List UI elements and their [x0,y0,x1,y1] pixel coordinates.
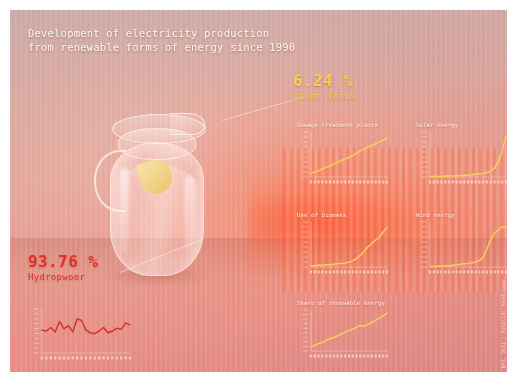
other-forms-value: 6.24 % [293,72,356,90]
chart-sewage-treatment-plants: Sewage treatment plants [297,122,389,184]
other-forms-label: Other forms [293,90,356,102]
chart-title-hydro [28,298,132,305]
chart-title-solar: Solar energy [416,122,507,128]
chart-share-of-renewable-energy: Share of renewable energy [297,300,389,358]
photo-credit: BFE, 2011 / Fotolia: Ferdinand [501,280,506,368]
chart-title-wind: Wind energy [416,212,507,218]
title-line-1: Development of electricity production [28,26,328,40]
pitcher-highlight-left [120,168,129,254]
pitcher-highlight-right [184,176,195,252]
plot-area-sewage [297,130,389,186]
plot-area-hydro [28,307,132,362]
pitcher-spout [170,113,205,135]
chart-wind-energy: Wind energy [416,212,507,274]
plot-area-wind [416,220,507,276]
chart-title-sewage: Sewage treatment plants [297,122,389,128]
callout-hydropower: 93.76 % Hydropwoer [28,253,98,283]
chart-solar-energy: Solar energy [416,122,507,184]
plot-area-biomass [297,220,389,276]
callout-other-forms: 6.24 % Other forms [293,72,356,102]
title-line-2: from renewable forms of energy since 199… [28,40,328,54]
hydropower-label: Hydropwoer [28,271,98,283]
plot-area-share [297,308,389,360]
chart-hydropower [28,298,132,360]
chart-title-biomass: Use of biomass [297,212,389,218]
plot-area-solar [416,130,507,186]
chart-use-of-biomass: Use of biomass [297,212,389,274]
page-title: Development of electricity production fr… [28,26,328,54]
chart-title-share: Share of renewable energy [297,300,389,306]
infographic-poster: Development of electricity production fr… [10,10,507,372]
hydropower-value: 93.76 % [28,253,98,271]
